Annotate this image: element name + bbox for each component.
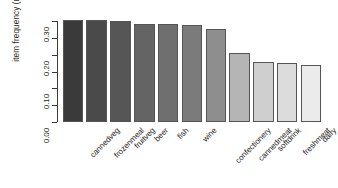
bar	[229, 53, 249, 122]
y-axis-tick	[52, 72, 57, 73]
x-axis-label: beer	[153, 126, 170, 143]
bar	[134, 24, 154, 122]
bar	[253, 62, 273, 122]
bar	[206, 29, 226, 122]
y-axis-tick	[52, 38, 57, 39]
bar	[110, 21, 130, 122]
x-axis-label: fish	[176, 126, 191, 141]
y-axis-tick	[52, 21, 57, 22]
bar	[182, 25, 202, 122]
y-axis-tick-label: 0.30	[42, 21, 51, 49]
y-axis-tick	[52, 55, 57, 56]
y-axis-tick	[52, 88, 57, 89]
x-axis-label: wine	[201, 126, 219, 144]
y-axis-tick-label: 0.10	[42, 88, 51, 116]
bar	[63, 20, 83, 122]
y-axis-line	[57, 21, 58, 122]
y-axis-tick	[52, 105, 57, 106]
y-axis-tick-label: 0.00	[42, 122, 51, 150]
bar	[158, 24, 178, 122]
bar	[86, 20, 106, 122]
y-axis-tick	[52, 122, 57, 123]
y-axis-tick-label: 0.20	[42, 54, 51, 82]
bar	[277, 63, 297, 122]
y-axis-title: item frequency (relative)	[12, 0, 21, 77]
bar-series	[61, 21, 323, 122]
bar	[301, 65, 321, 122]
